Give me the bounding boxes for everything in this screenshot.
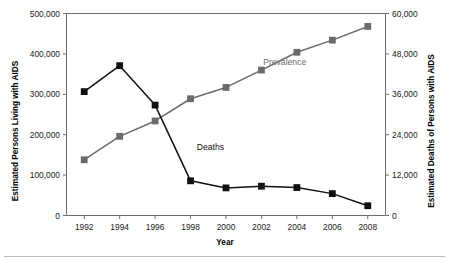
series-label-deaths: Deaths [197,142,224,152]
data-point-deaths-2000 [223,184,230,191]
data-point-prevalence-2000 [223,84,230,91]
data-point-deaths-1996 [152,102,159,109]
y-axis-right-title: Estimated Deaths of Persons with AIDS [427,54,436,208]
y-left-tick-label-400000: 400,000 [30,49,61,59]
y-right-tick-label-60000: 60,000 [392,9,418,19]
x-tick-label-2000: 2000 [217,222,236,232]
data-point-deaths-1994 [116,62,123,69]
y-left-tick-label-0: 0 [55,211,60,221]
data-point-deaths-2004 [293,184,300,191]
y-right-tick-label-0: 0 [392,211,397,221]
y-left-tick-label-200000: 200,000 [30,130,61,140]
data-point-prevalence-2008 [364,23,371,30]
x-tick-label-1996: 1996 [146,222,165,232]
x-tick-label-2006: 2006 [323,222,342,232]
x-tick-label-2004: 2004 [288,222,307,232]
y-left-tick-label-300000: 300,000 [30,89,61,99]
x-tick-label-1992: 1992 [75,222,94,232]
x-tick-label-2008: 2008 [358,222,377,232]
y-left-tick-label-100000: 100,000 [30,170,61,180]
x-tick-label-2002: 2002 [252,222,271,232]
data-point-deaths-1998 [187,177,194,184]
y-axis-left-title: Estimated Persons Living with AIDS [11,60,20,201]
aids-prevalence-deaths-line-chart: 199219941996199820002002200420062008 010… [0,0,449,263]
data-point-prevalence-2006 [329,37,336,44]
x-tick-label-1998: 1998 [181,222,200,232]
data-point-deaths-2002 [258,183,265,190]
x-axis-title: Year [216,238,234,247]
y-right-tick-label-12000: 12,000 [392,170,418,180]
data-point-prevalence-1996 [152,118,159,125]
x-axis-tick-labels: 199219941996199820002002200420062008 [75,222,378,232]
chart-figure: 199219941996199820002002200420062008 010… [0,0,449,263]
y-left-tick-label-500000: 500,000 [30,9,61,19]
y-right-tick-label-24000: 24,000 [392,130,418,140]
series-label-prevalence: Prevalence [263,57,306,67]
data-point-prevalence-1998 [187,95,194,102]
data-point-deaths-2008 [364,202,371,209]
data-point-prevalence-1992 [81,156,88,163]
data-point-deaths-1992 [81,88,88,95]
data-point-deaths-2006 [329,190,336,197]
data-point-prevalence-1994 [116,133,123,140]
y-right-tick-label-36000: 36,000 [392,89,418,99]
y-right-tick-label-48000: 48,000 [392,49,418,59]
data-point-prevalence-2004 [293,49,300,56]
data-point-prevalence-2002 [258,67,265,74]
x-tick-label-1994: 1994 [110,222,129,232]
